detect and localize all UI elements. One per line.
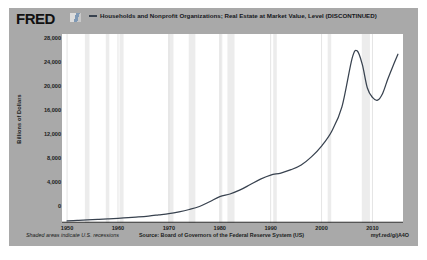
y-tick-0: 0 bbox=[27, 203, 61, 209]
recession-band bbox=[362, 34, 370, 223]
recession-band bbox=[85, 34, 90, 223]
short-url-label[interactable]: myf.red/g/jA4O bbox=[371, 232, 409, 238]
recession-band bbox=[220, 34, 223, 223]
chart-header: FRED Households and Nonprofit Organizati… bbox=[9, 8, 418, 30]
y-tick-4000: 4,000 bbox=[27, 179, 61, 185]
y-axis-tick-labels: 28,000 24,000 20,000 16,000 12,000 8,000… bbox=[21, 8, 61, 246]
y-tick-8000: 8,000 bbox=[27, 155, 61, 161]
recession-band bbox=[189, 34, 196, 223]
fred-logo-mark-icon bbox=[70, 13, 81, 22]
recession-band bbox=[273, 34, 277, 223]
chart-footer: Shaded areas indicate U.S. recessions So… bbox=[9, 228, 418, 246]
recession-band bbox=[120, 34, 124, 223]
chart-plot-svg bbox=[62, 34, 403, 223]
y-tick-28000: 28,000 bbox=[27, 35, 61, 41]
y-tick-24000: 24,000 bbox=[27, 59, 61, 65]
recession-band bbox=[106, 34, 110, 223]
y-tick-20000: 20,000 bbox=[27, 83, 61, 89]
legend-line-swatch-icon bbox=[89, 15, 97, 17]
legend-series-label: Households and Nonprofit Organizations; … bbox=[100, 12, 377, 20]
source-note: Source: Board of Governors of the Federa… bbox=[139, 232, 304, 238]
chart-legend[interactable]: Households and Nonprofit Organizations; … bbox=[89, 12, 377, 20]
fred-chart-card: FRED Households and Nonprofit Organizati… bbox=[9, 8, 418, 246]
chart-plot-area[interactable] bbox=[62, 34, 403, 223]
recession-band bbox=[328, 34, 332, 223]
gridlines-group bbox=[67, 34, 372, 223]
recession-note: Shaded areas indicate U.S. recessions bbox=[26, 232, 119, 238]
y-tick-16000: 16,000 bbox=[27, 107, 61, 113]
y-tick-12000: 12,000 bbox=[27, 131, 61, 137]
